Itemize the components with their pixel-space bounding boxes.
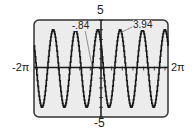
y-min-label: -5 [94, 117, 105, 129]
annotation-max-label: 3.94 [133, 20, 152, 30]
y-max-label: 5 [97, 4, 104, 16]
x-min-label: -2π [12, 62, 29, 73]
x-max-label: 2π [171, 62, 185, 73]
annotation-root-label: -.84 [72, 21, 89, 31]
